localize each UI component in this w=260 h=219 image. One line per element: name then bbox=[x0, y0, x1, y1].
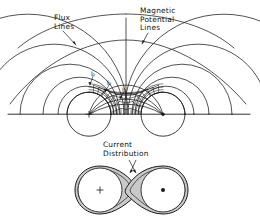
current-distribution-diagram bbox=[0, 0, 260, 219]
current-element-label-i1: I₁ bbox=[91, 70, 95, 77]
magnetic-field-figure: Flux Lines Magnetic Potential Lines Curr… bbox=[0, 0, 260, 219]
flux-lines-label: Flux Lines bbox=[54, 14, 74, 31]
dot-icon-lower-right bbox=[161, 188, 165, 192]
current-element-label-i2: I₂ bbox=[107, 79, 111, 86]
current-distribution-label: Current Distribution bbox=[103, 141, 149, 158]
current-element-label-i3: I₃ bbox=[122, 86, 126, 93]
current-leader-right-arrowhead bbox=[130, 169, 133, 173]
magnetic-potential-lines-label: Magnetic Potential Lines bbox=[140, 7, 175, 33]
current-leader-left-arrowhead bbox=[133, 169, 136, 173]
